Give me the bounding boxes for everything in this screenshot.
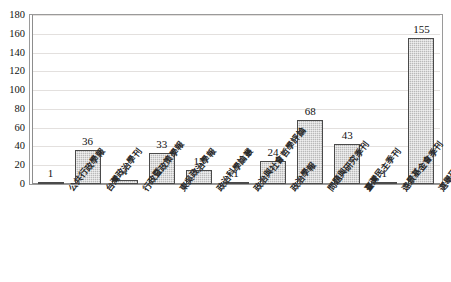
x-axis-category-labels: 公共行政學報台灣政治學刊行政暨政策學報東吳政治學報政治科學論叢政治與社會哲學評論… xyxy=(32,188,440,282)
x-axis-category-label: 行政暨政策學報 xyxy=(141,188,148,194)
y-axis-tick-label: 40 xyxy=(0,141,25,151)
y-axis-tick-label: 20 xyxy=(0,160,25,170)
y-axis-tick-label: 0 xyxy=(0,179,25,189)
bar-value-label: 36 xyxy=(82,136,93,147)
x-axis-category-label: 政治科學論叢 xyxy=(215,188,222,194)
bar-slot: 1 xyxy=(32,15,69,184)
bar-value-label: 33 xyxy=(156,139,167,150)
bar-slot: 68 xyxy=(292,15,329,184)
x-axis-category-label: 問題與研究季刊 xyxy=(326,188,333,194)
y-axis-tick-label: 140 xyxy=(0,48,25,58)
bar-value-label: 68 xyxy=(305,106,316,117)
y-axis-tick-label: 80 xyxy=(0,104,25,114)
x-axis-category-label: 政治學報 xyxy=(289,188,296,194)
y-axis-tick-label: 180 xyxy=(0,10,25,20)
x-axis-category-label: 政治與社會哲學評論 xyxy=(252,188,259,194)
bar-value-label: 43 xyxy=(342,130,353,141)
x-axis-category-label: 遠景基金會季刊 xyxy=(400,188,407,194)
bar-chart: 180160140120100806040200 136433151246843… xyxy=(0,0,451,282)
bar-value-label: 1 xyxy=(48,168,54,179)
x-axis-category-label: 臺灣民主季刊 xyxy=(363,188,370,194)
y-axis-tick-label: 60 xyxy=(0,123,25,133)
y-axis-tick-labels: 180160140120100806040200 xyxy=(0,14,28,185)
bar[interactable] xyxy=(38,182,64,184)
y-axis-tick-label: 120 xyxy=(0,66,25,76)
x-axis-category-label: 東吳政治學報 xyxy=(178,188,185,194)
y-axis-tick-label: 100 xyxy=(0,85,25,95)
y-axis-tick-label: 160 xyxy=(0,29,25,39)
x-axis-category-label: 公共行政學報 xyxy=(67,188,74,194)
bar-value-label: 155 xyxy=(413,24,430,35)
x-axis-category-label: 台灣政治學刊 xyxy=(104,188,111,194)
x-axis-category-label: 選舉研究 xyxy=(437,188,444,194)
